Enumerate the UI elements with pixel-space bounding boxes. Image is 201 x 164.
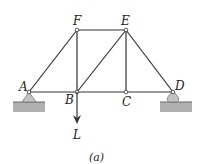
ground-left bbox=[13, 102, 45, 112]
label-A: A bbox=[18, 80, 28, 94]
member-DE bbox=[126, 30, 173, 92]
label-load: L bbox=[72, 128, 81, 142]
label-F: F bbox=[72, 14, 82, 28]
label-B: B bbox=[64, 93, 74, 107]
caption: (a) bbox=[89, 151, 104, 164]
joint-F bbox=[75, 28, 79, 32]
truss-diagram: A B C D E F L (a) bbox=[0, 0, 201, 164]
label-E: E bbox=[120, 14, 130, 28]
label-C: C bbox=[122, 95, 131, 109]
member-AF bbox=[29, 30, 77, 92]
truss-members bbox=[29, 30, 173, 92]
joint-E bbox=[124, 28, 128, 32]
joint-A bbox=[27, 90, 31, 94]
member-BE bbox=[77, 30, 126, 92]
label-D: D bbox=[174, 79, 185, 93]
ground-right bbox=[160, 102, 192, 112]
joint-C bbox=[124, 90, 128, 94]
